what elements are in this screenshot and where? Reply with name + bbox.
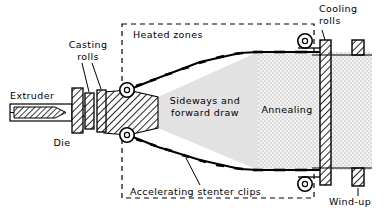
cooling-rolls-label-line1: Cooling [319,3,357,14]
extruder-screw [14,107,66,118]
sprocket-upper-left [120,83,134,97]
die-block [72,88,83,133]
draw-label-line2: forward draw [171,107,239,118]
cooling-roll-2 [352,40,364,55]
wind-up-label: Wind-up [329,196,371,207]
draw-label-line1: Sideways and [170,95,240,106]
extruder-label: Extruder [10,90,54,101]
process-diagram: Extruder Die Casting rolls Heated zones … [0,0,385,222]
sprocket-lower-left [120,128,134,142]
sprocket-upper-right [298,34,312,48]
sprocket-lower-right [298,177,312,191]
casting-roll-2 [97,90,106,132]
stenter-clips-leader [186,158,200,185]
cooling-rolls-leader [322,30,325,40]
die-label: Die [54,137,71,148]
heated-zones-label: Heated zones [133,29,203,40]
casting-rolls-label-line2: rolls [77,51,99,62]
post-cooling-stipple [330,52,372,170]
stenter-clips-label: Accelerating stenter clips [130,186,261,197]
diagram-canvas: Extruder Die Casting rolls Heated zones … [0,0,385,222]
casting-rolls-leader-2 [92,63,101,89]
wind-up-roll [352,168,364,186]
annealing-label: Annealing [261,104,312,115]
casting-roll-1 [85,93,94,129]
casting-rolls-label-line1: Casting [69,39,108,50]
cooling-roll-1 [320,40,331,185]
cooling-rolls-label-line2: rolls [319,15,341,26]
